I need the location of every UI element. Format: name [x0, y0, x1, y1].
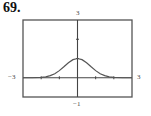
ymax-label: 3 — [76, 10, 80, 17]
ymin-label: −1 — [73, 101, 80, 108]
xmin-label: −3 — [8, 74, 15, 81]
graphing-window — [0, 0, 151, 116]
xmax-label: 3 — [137, 74, 141, 81]
